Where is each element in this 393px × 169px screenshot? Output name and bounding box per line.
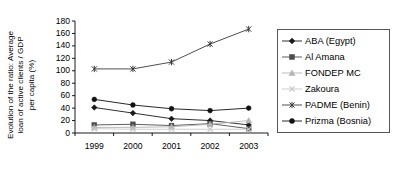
legend-item-al-amana[interactable]: Al Amana [278, 49, 389, 65]
data-point [131, 103, 136, 108]
legend-item-label: Prizma (Bosnia) [303, 116, 371, 126]
legend-item-label: ABA (Egypt) [303, 36, 356, 46]
data-point [92, 105, 98, 111]
data-point [169, 116, 175, 122]
chart-figure: Evolution of the ratio: Average loan of … [0, 0, 393, 169]
legend-item-prizma-bosnia[interactable]: Prizma (Bosnia) [278, 113, 389, 129]
diamond-marker-icon [281, 34, 303, 48]
legend-marker [290, 119, 295, 124]
legend-marker [289, 38, 295, 44]
series-padme-benin [92, 26, 252, 72]
legend-item-fondep-mc[interactable]: FONDEP MC [278, 65, 389, 81]
circle-marker-icon [281, 114, 303, 128]
legend-item-zakoura[interactable]: Zakoura [278, 81, 389, 97]
data-point [92, 97, 97, 102]
legend-item-label: FONDEP MC [303, 68, 361, 78]
triangle-marker-icon [281, 66, 303, 80]
data-point [246, 106, 251, 111]
data-point [208, 108, 213, 113]
legend-item-label: Zakoura [303, 84, 339, 94]
legend-item-padme-benin[interactable]: PADME (Benin) [278, 97, 389, 113]
chart-legend: ABA (Egypt)Al AmanaFONDEP MCZakouraPADME… [277, 29, 390, 133]
data-point [246, 118, 252, 123]
data-point [246, 26, 251, 32]
legend-item-label: Al Amana [303, 52, 345, 62]
legend-item-label: PADME (Benin) [303, 100, 370, 110]
legend-item-aba-egypt[interactable]: ABA (Egypt) [278, 33, 389, 49]
data-point [169, 106, 174, 111]
asterisk-marker-icon [281, 98, 303, 112]
cross-marker-icon [281, 82, 303, 96]
square-marker-icon [281, 50, 303, 64]
data-point [208, 41, 213, 47]
legend-marker [290, 55, 295, 60]
data-point [130, 110, 136, 116]
